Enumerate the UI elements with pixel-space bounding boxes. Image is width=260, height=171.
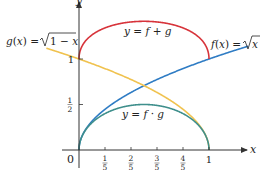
x-tick-label: 1 [206, 154, 212, 165]
f-curve [79, 46, 248, 150]
svg-text:1 − x: 1 − x [50, 35, 78, 47]
x-tick-label-denominator: 5 [181, 163, 186, 171]
y-tick-label-numerator: 1 [68, 96, 73, 105]
x-axis-label: x [250, 143, 257, 156]
g-function-label: g(x) = 1 − x [6, 33, 78, 47]
x-tick-label-denominator: 5 [155, 163, 160, 171]
y-tick-label-denominator: 2 [68, 105, 73, 114]
svg-text:f(x) =: f(x) = [210, 38, 241, 50]
x-tick-label-numerator: 3 [155, 154, 160, 163]
y-tick-label: 1 [68, 54, 74, 65]
x-tick-label-denominator: 5 [103, 163, 108, 171]
sum-label: y = f + g [123, 25, 172, 37]
x-tick-label-numerator: 1 [103, 154, 108, 163]
x-tick-label-denominator: 5 [129, 163, 134, 171]
y-axis-label: y [75, 0, 83, 7]
f-function-label: f(x) = x [210, 36, 260, 50]
product-label: y = f · g [121, 108, 164, 120]
x-tick-label-numerator: 2 [129, 154, 134, 163]
svg-text:g(x) =: g(x) = [6, 35, 39, 47]
origin-label: 0 [67, 153, 74, 166]
svg-text:x: x [252, 38, 258, 50]
function-graph: x y 0 152535451121 g(x) = 1 − x f(x) = x… [0, 0, 260, 171]
x-tick-label-numerator: 4 [181, 154, 186, 163]
